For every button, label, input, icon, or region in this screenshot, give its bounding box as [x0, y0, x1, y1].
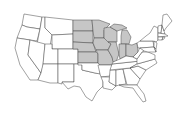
state-colorado — [58, 49, 78, 64]
state-florida — [119, 85, 146, 102]
state-kansas — [78, 52, 98, 63]
us-map — [0, 0, 179, 121]
state-maine — [162, 14, 172, 31]
state-massachusetts — [158, 33, 168, 37]
state-south-dakota — [73, 31, 93, 43]
state-wyoming — [52, 34, 73, 49]
state-new-mexico — [58, 64, 74, 84]
state-michigan-lower — [121, 30, 131, 44]
state-montana — [45, 17, 73, 35]
state-north-dakota — [73, 20, 93, 31]
state-new-york — [140, 26, 158, 42]
